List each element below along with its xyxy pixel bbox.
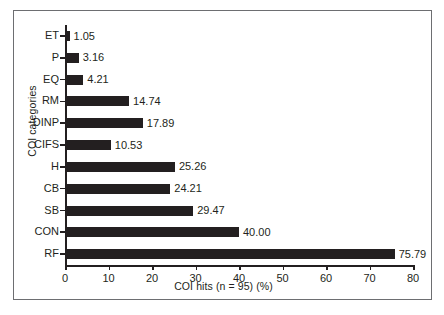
bar-value-label: 29.47: [197, 203, 225, 217]
y-axis-tick-label: SB: [0, 203, 59, 217]
bar: [65, 75, 83, 85]
y-axis-tick-label: EQ: [0, 72, 59, 86]
bar: [65, 31, 70, 41]
y-axis-tick-label: P: [0, 50, 59, 64]
y-axis-tick-label: CON: [0, 224, 59, 238]
bar-value-label: 14.74: [133, 94, 161, 108]
bar-row: DINP17.89: [65, 112, 413, 134]
x-axis-tick: [65, 265, 67, 270]
y-axis-tick-label: RF: [0, 246, 59, 260]
x-axis-tick: [239, 265, 241, 270]
x-axis-tick: [326, 265, 328, 270]
bar-value-label: 40.00: [243, 225, 271, 239]
bar: [65, 53, 79, 63]
bar-row: SB29.47: [65, 200, 413, 222]
bar: [65, 227, 239, 237]
x-axis-tick: [109, 265, 111, 270]
bar: [65, 249, 395, 259]
x-axis-tick-label: 60: [306, 272, 346, 284]
y-axis-tick-label: DINP: [0, 115, 59, 129]
bar-value-label: 24.21: [174, 181, 202, 195]
x-axis-tick: [370, 265, 372, 270]
bar-row: H25.26: [65, 156, 413, 178]
figure: COI categories COI hits (n = 95) (%) 010…: [0, 0, 444, 315]
x-axis-tick: [413, 265, 415, 270]
x-axis-tick-label: 0: [45, 272, 85, 284]
bar-row: RM14.74: [65, 90, 413, 112]
x-axis-tick: [196, 265, 198, 270]
bar: [65, 96, 129, 106]
x-axis-tick-label: 70: [350, 272, 390, 284]
plot-area: 01020304050607080ET1.05P3.16EQ4.21RM14.7…: [65, 25, 413, 265]
bar-value-label: 3.16: [83, 50, 104, 64]
bar-value-label: 25.26: [179, 159, 207, 173]
figure-caption: [17, 305, 427, 315]
bar-row: CB24.21: [65, 178, 413, 200]
bar: [65, 184, 170, 194]
bar-row: ET1.05: [65, 25, 413, 47]
x-axis-tick-label: 40: [219, 272, 259, 284]
y-axis-tick-label: RM: [0, 93, 59, 107]
bar: [65, 140, 111, 150]
x-axis-tick-label: 80: [393, 272, 433, 284]
bar-row: CON40.00: [65, 221, 413, 243]
bar: [65, 118, 143, 128]
bar-value-label: 4.21: [87, 72, 108, 86]
x-axis-tick-label: 30: [176, 272, 216, 284]
x-axis-tick: [283, 265, 285, 270]
y-axis-tick-label: CB: [0, 181, 59, 195]
y-axis-tick-label: ET: [0, 28, 59, 42]
bar-value-label: 10.53: [115, 138, 143, 152]
x-axis-tick: [152, 265, 154, 270]
bar-value-label: 17.89: [147, 116, 175, 130]
bar: [65, 206, 193, 216]
bar-row: EQ4.21: [65, 69, 413, 91]
bar-row: RF75.79: [65, 243, 413, 265]
bar-row: CIFS10.53: [65, 134, 413, 156]
bar-row: P3.16: [65, 47, 413, 69]
bar-value-label: 75.79: [399, 247, 427, 261]
chart-frame: COI categories COI hits (n = 95) (%) 010…: [13, 10, 432, 300]
bar: [65, 162, 175, 172]
y-axis-tick-label: H: [0, 159, 59, 173]
bar-value-label: 1.05: [74, 29, 95, 43]
x-axis-tick-label: 50: [263, 272, 303, 284]
y-axis-tick-label: CIFS: [0, 137, 59, 151]
x-axis-tick-label: 10: [89, 272, 129, 284]
x-axis-tick-label: 20: [132, 272, 172, 284]
